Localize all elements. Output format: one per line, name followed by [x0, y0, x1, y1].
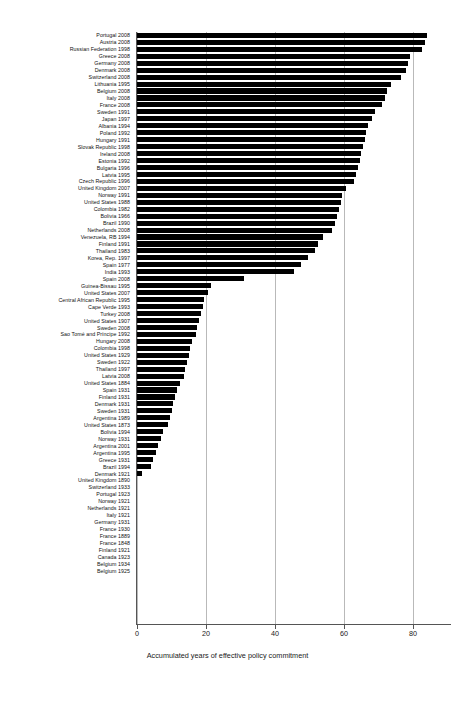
bar-row-label: Japan 1997 — [102, 116, 130, 122]
bar — [137, 318, 199, 323]
bar-row-label: Russian Federation 1998 — [70, 46, 130, 52]
bar-row: Colombia 1998 — [0, 345, 455, 352]
bar-track — [137, 143, 455, 150]
bar — [137, 54, 410, 59]
bar-track — [137, 60, 455, 67]
bar-row: Argentina 2001 — [0, 442, 455, 449]
bar-row: Thailand 1997 — [0, 366, 455, 373]
bar-row: Germany 1931 — [0, 519, 455, 526]
bar-row: Denmark 1931 — [0, 401, 455, 408]
bar-row-label: Norway 1931 — [98, 436, 130, 442]
bar-row: Spain 1977 — [0, 261, 455, 268]
bar — [137, 276, 244, 281]
bar-row-label: Argentina 1989 — [93, 415, 130, 421]
bar-track — [137, 192, 455, 199]
bar-track — [137, 435, 455, 442]
bar-track — [137, 428, 455, 435]
bar-track — [137, 32, 455, 39]
bar-row: United States 1929 — [0, 352, 455, 359]
bar-row-label: Denmark 1931 — [95, 401, 130, 407]
bar-row: Norway 1991 — [0, 192, 455, 199]
bar-track — [137, 241, 455, 248]
bar — [137, 47, 422, 52]
bar-track — [137, 387, 455, 394]
bar-track — [137, 164, 455, 171]
bar-track — [137, 359, 455, 366]
bar-track — [137, 567, 455, 574]
bar-row-label: Germany 2008 — [94, 60, 130, 66]
bar — [137, 367, 185, 372]
bar-track — [137, 261, 455, 268]
bar-row-label: Sweden 2008 — [97, 325, 130, 331]
bar — [137, 339, 192, 344]
bar — [137, 116, 372, 121]
bar-row-label: France 1889 — [100, 533, 130, 539]
bar-row: United States 1884 — [0, 380, 455, 387]
bar-track — [137, 102, 455, 109]
bar-row-label: Ireland 2008 — [100, 151, 130, 157]
bar-row: Austria 2008 — [0, 39, 455, 46]
bar — [137, 144, 363, 149]
bar-row-label: United States 1929 — [84, 352, 130, 358]
bar — [137, 408, 172, 413]
bar-row-label: France 1930 — [100, 526, 130, 532]
bar-track — [137, 463, 455, 470]
bar — [137, 304, 203, 309]
bar-row: Greece 2008 — [0, 53, 455, 60]
bar-row: Korea, Rep. 1997 — [0, 255, 455, 262]
bar-track — [137, 88, 455, 95]
bar-row: Bolivia 1994 — [0, 428, 455, 435]
bar — [137, 221, 335, 226]
bar-track — [137, 81, 455, 88]
bar — [137, 193, 342, 198]
bar-row: United States 1988 — [0, 199, 455, 206]
bar-row: Sweden 1931 — [0, 407, 455, 414]
bar — [137, 374, 184, 379]
bar-track — [137, 449, 455, 456]
bar-row-label: Estonia 1992 — [98, 158, 130, 164]
bar-track — [137, 213, 455, 220]
bar-row: Central African Republic 1995 — [0, 296, 455, 303]
bar-row-label: Sweden 1991 — [97, 109, 130, 115]
bar-track — [137, 394, 455, 401]
bar-row-label: Finland 1921 — [99, 547, 130, 553]
bar-track — [137, 115, 455, 122]
bar-row-label: Greece 1931 — [99, 457, 130, 463]
bar-row-label: Italy 2008 — [107, 95, 130, 101]
bar-track — [137, 456, 455, 463]
bar — [137, 82, 391, 87]
x-tick-label: 40 — [271, 629, 279, 638]
bar — [137, 415, 170, 420]
bar-row-label: Venezuela, RB 1994 — [81, 234, 130, 240]
bar-row: United Kingdom 2007 — [0, 185, 455, 192]
bar-row-label: Brazil 1994 — [103, 464, 130, 470]
bar-row-label: Central African Republic 1995 — [58, 297, 130, 303]
bar-track — [137, 352, 455, 359]
bar-track — [137, 553, 455, 560]
bar-track — [137, 53, 455, 60]
bar-row-label: Latvia 2008 — [102, 373, 130, 379]
bar-row: United Kingdom 1890 — [0, 477, 455, 484]
bar-row-label: Spain 1931 — [103, 387, 130, 393]
bar-row: Finland 1921 — [0, 547, 455, 554]
bar-row: France 2008 — [0, 102, 455, 109]
bar-track — [137, 512, 455, 519]
bar-row-label: Portugal 2008 — [96, 32, 130, 38]
bar-row-label: India 1993 — [105, 269, 130, 275]
bar-row-label: Denmark 2008 — [95, 67, 130, 73]
bar-row: Turkey 2008 — [0, 310, 455, 317]
bar — [137, 207, 339, 212]
bar-row: United States 1873 — [0, 421, 455, 428]
bar — [137, 75, 401, 80]
bar-row: Colombia 1982 — [0, 206, 455, 213]
bar-track — [137, 150, 455, 157]
bar — [137, 346, 190, 351]
bar-track — [137, 129, 455, 136]
bar-track — [137, 296, 455, 303]
bar-row: Belgium 2008 — [0, 88, 455, 95]
bar-row-label: Belgium 1925 — [97, 568, 130, 574]
bar-track — [137, 547, 455, 554]
bar-row: Italy 2008 — [0, 95, 455, 102]
bar-row-label: Finland 1931 — [99, 394, 130, 400]
bar-row-label: Bolivia 1994 — [101, 429, 130, 435]
